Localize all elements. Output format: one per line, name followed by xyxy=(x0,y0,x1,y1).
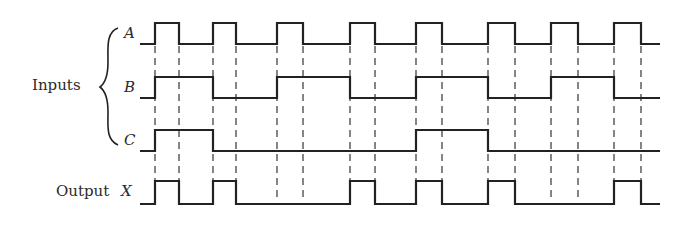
waveforms xyxy=(140,23,660,204)
inputs-brace xyxy=(100,28,118,145)
waveform-x xyxy=(140,181,660,204)
waveform-c xyxy=(140,130,660,151)
inputs-label: Inputs xyxy=(32,76,81,94)
output-label: Output xyxy=(56,182,109,200)
signal-label-b: B xyxy=(124,78,135,96)
waveform-b xyxy=(140,77,660,98)
dashed-guide-lines xyxy=(155,46,641,198)
waveform-a xyxy=(140,23,660,44)
signal-label-x: X xyxy=(121,182,132,200)
signal-label-c: C xyxy=(124,131,135,149)
signal-label-a: A xyxy=(124,24,135,42)
